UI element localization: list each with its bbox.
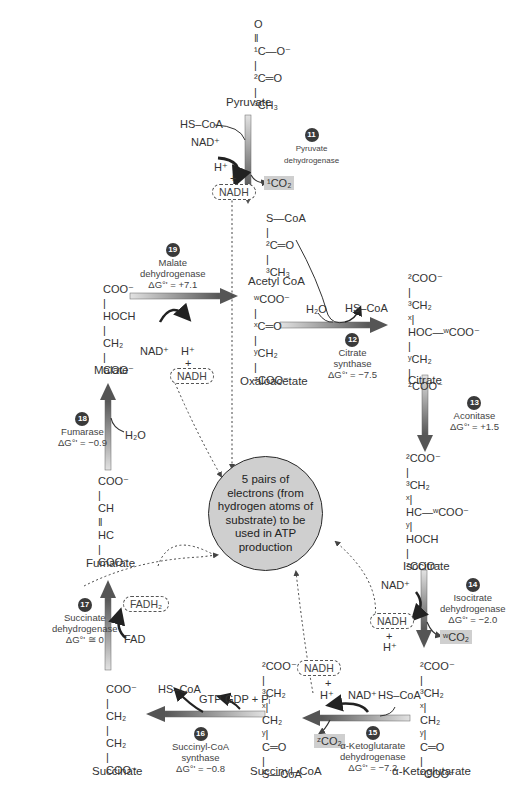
step14-badge: 14	[466, 578, 480, 592]
step18-h2o: H₂O	[125, 429, 146, 442]
step15-enzyme: 15 α-Ketoglutarate dehydrogenase ΔG°' = …	[340, 726, 406, 773]
step19-nad: NAD⁺	[140, 345, 169, 358]
step18-enzyme-name: Fumarase	[61, 426, 104, 437]
step14-h: H⁺	[383, 641, 397, 654]
step15-dg: ΔG°' = −7.2	[348, 762, 397, 773]
step15-h: H⁺	[320, 689, 334, 702]
step15-hscoa: HS–CoA	[378, 689, 421, 702]
acetyl-coa-label: Acetyl CoA	[248, 275, 305, 287]
step11-enzyme-name: Pyruvate dehydrogenase	[284, 144, 339, 165]
step19-dg: ΔG°' = +7.1	[148, 279, 197, 290]
step14-co2: ʷCO₂	[440, 630, 472, 644]
step18-badge: 18	[75, 412, 89, 426]
step17-fad: FAD	[124, 633, 145, 646]
succinate-structure: COO⁻ | CH₂ | CH₂ | COO⁻	[106, 683, 137, 778]
step16-hscoa: HS–CoA	[158, 683, 201, 696]
citrate-label: Citrate	[408, 374, 442, 386]
step16-gtp: GTP	[199, 693, 222, 706]
step11-nadh: NADH	[212, 184, 256, 200]
center-node-text: 5 pairs of electrons (from hydrogen atom…	[218, 473, 314, 554]
step13-dg: ΔG°' = +1.5	[450, 421, 499, 432]
step16-dg: ΔG°' = −0.8	[176, 763, 225, 774]
step19-enzyme-name: Malate dehydrogenase	[140, 257, 206, 279]
step12-hscoa: HS–CoA	[345, 302, 388, 315]
electron-pairs-node: 5 pairs of electrons (from hydrogen atom…	[208, 456, 323, 571]
step17-enzyme: 17 Succinate dehydrogenase ΔG°' ≅ 0	[52, 598, 118, 645]
malate-label: Malate	[94, 364, 129, 376]
step15-badge: 15	[366, 726, 380, 740]
alpha-ketoglutarate-structure: ²COO⁻ | ³CH₂ ˣ| CH₂ ʸ| C═O | ᶻCOO⁻	[420, 660, 455, 782]
step16-enzyme-name: Succinyl-CoA synthase	[172, 741, 229, 763]
step12-badge: 12	[345, 333, 359, 347]
step14-enzyme-name: Isocitrate dehydrogenase	[440, 592, 506, 614]
step11-nad: NAD⁺	[191, 136, 220, 149]
step13-enzyme-name: Aconitase	[454, 410, 496, 421]
step12-dg: ΔG°' = −7.5	[328, 369, 377, 380]
step11-enzyme: 11 Pyruvate dehydrogenase	[284, 128, 339, 166]
step15-enzyme-name: α-Ketoglutarate dehydrogenase	[340, 740, 406, 762]
step19-enzyme: 19 Malate dehydrogenase ΔG°' = +7.1	[140, 243, 206, 290]
oxaloacetate-structure: ʷCOO⁻ | ˣC═O | ʸCH₂ | ᶻCOO⁻	[254, 293, 290, 388]
step18-dg: ΔG°' = −0.9	[58, 437, 107, 448]
step15-nadh: NADH	[297, 660, 341, 676]
isocitrate-label: Isocitrate	[403, 560, 450, 572]
step17-enzyme-name: Succinate dehydrogenase	[52, 612, 118, 634]
isocitrate-structure: ²COO⁻ | ³CH₂ ˣ| HC—ʷCOO⁻ ʸ| HOCH | ᶻCOO⁻	[406, 452, 469, 574]
step16-enzyme: 16 Succinyl-CoA synthase ΔG°' = −0.8	[172, 727, 229, 774]
step14-nad: NAD⁺	[381, 579, 410, 592]
pyruvate-label: Pyruvate	[226, 96, 271, 108]
step16-badge: 16	[194, 727, 208, 741]
step12-enzyme: 12 Citrate synthase ΔG°' = −7.5	[328, 333, 377, 380]
step13-enzyme: 13 Aconitase ΔG°' = +1.5	[450, 396, 499, 432]
step16-gdp-pi: GDP + Pᵢ	[225, 693, 270, 706]
step12-enzyme-name: Citrate synthase	[333, 347, 371, 369]
step11-h: H⁺	[214, 161, 228, 174]
step17-fadh2: FADH₂	[123, 596, 169, 612]
step19-nadh: NADH	[170, 368, 214, 384]
succinyl-coa-label: Succinyl–CoA	[250, 765, 322, 777]
step11-badge: 11	[305, 128, 319, 142]
step17-badge: 17	[78, 598, 92, 612]
step17-dg: ΔG°' ≅ 0	[66, 634, 104, 645]
step18-enzyme: 18 Fumarase ΔG°' = −0.9	[58, 412, 107, 448]
step12-h2o: H₂O	[306, 303, 327, 316]
fumarate-label: Fumarate	[86, 557, 135, 569]
step14-dg: ΔG°' = −2.0	[448, 614, 497, 625]
step11-hscoa: HS–CoA	[180, 118, 223, 131]
oxaloacetate-label: Oxaloacetate	[240, 375, 308, 387]
step13-badge: 13	[467, 396, 481, 410]
step11-co2: ¹CO₂	[264, 176, 294, 190]
succinate-label: Succinate	[92, 765, 143, 777]
acetyl-coa-structure: S—CoA | ²C═O | ³CH₃	[266, 212, 306, 280]
step15-nad: NAD⁺	[348, 689, 377, 702]
fumarate-structure: COO⁻ | CH ‖ HC | COO⁻	[98, 475, 129, 570]
step19-badge: 19	[166, 243, 180, 257]
step14-nadh: NADH	[370, 613, 414, 629]
succinyl-coa-structure: ²COO⁻ | ³CH₂ ˣ| CH₂ ʸ| C═O | S—CoA	[262, 660, 302, 782]
step14-enzyme: 14 Isocitrate dehydrogenase ΔG°' = −2.0	[440, 578, 506, 625]
